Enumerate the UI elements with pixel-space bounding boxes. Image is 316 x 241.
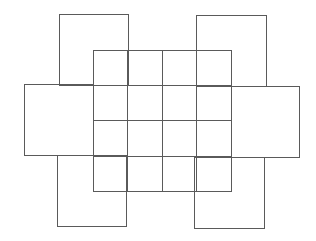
left-square: [25, 85, 94, 156]
square-net-diagram: [0, 0, 316, 241]
right-square: [232, 87, 300, 158]
bottom-right-square: [195, 158, 265, 229]
central-grid: [93, 50, 232, 192]
